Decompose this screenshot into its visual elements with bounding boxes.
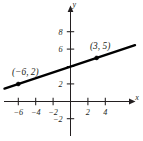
y-axis-label: y [72, 0, 77, 9]
y-tick-label-2: 2 [58, 80, 62, 89]
x-tick-label-neg6: −6 [13, 108, 24, 117]
x-tick-label-4: 4 [103, 108, 107, 117]
point-annotation-neg6-2: (−6, 2) [12, 67, 39, 78]
y-tick-label-8: 8 [58, 28, 62, 37]
coordinate-plane-svg: −6 −4 −2 2 4 8 6 2 −2 x y (−6, 2) (3, 5) [0, 0, 143, 141]
x-axis-label: x [134, 93, 139, 102]
data-point-neg6-2 [16, 82, 20, 86]
data-point-3-5 [95, 56, 99, 60]
x-tick-label-neg4: −4 [31, 108, 41, 117]
y-tick-label-neg2: −2 [53, 115, 63, 124]
x-tick-label-2: 2 [86, 108, 90, 117]
point-annotation-3-5: (3, 5) [90, 41, 110, 52]
y-tick-label-6: 6 [58, 45, 63, 54]
graph-figure: −6 −4 −2 2 4 8 6 2 −2 x y (−6, 2) (3, 5) [0, 0, 143, 141]
